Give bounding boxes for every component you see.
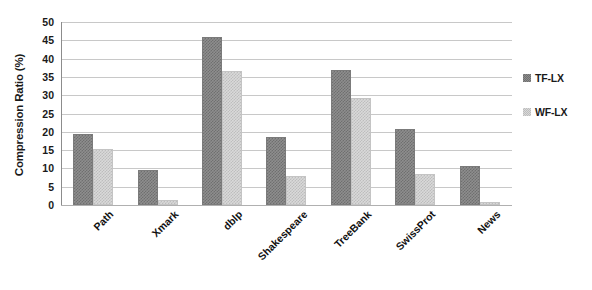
bar <box>286 176 306 205</box>
y-tick-label-30: 30 <box>0 89 58 101</box>
x-tick-label: Path <box>91 208 116 233</box>
bar <box>138 170 158 205</box>
y-tick-label-15: 15 <box>0 144 58 156</box>
y-axis-tick-labels: 50454035302520151050 <box>0 22 58 205</box>
bar-chart: Compression Ratio (%) 504540353025201510… <box>0 0 592 290</box>
legend-swatch-icon <box>523 74 531 82</box>
legend-label: WF-LX <box>535 106 567 118</box>
bar <box>480 202 500 205</box>
legend-item: WF-LX <box>523 106 589 118</box>
bar <box>93 149 113 205</box>
bar <box>73 134 93 205</box>
bar-series-container <box>61 22 512 205</box>
gridline-0 <box>61 205 512 206</box>
x-tick-label: Xmark <box>149 208 180 239</box>
bar-group <box>125 22 189 205</box>
bar <box>351 98 371 205</box>
x-tick-label: News <box>474 208 502 236</box>
bar-group <box>448 22 512 205</box>
bar-group <box>61 22 125 205</box>
bar-group <box>319 22 383 205</box>
y-tick-label-0: 0 <box>0 199 58 211</box>
bar <box>158 200 178 205</box>
bar-group <box>190 22 254 205</box>
y-tick-label-25: 25 <box>0 108 58 120</box>
x-tick-label: TreeBank <box>331 208 373 250</box>
y-tick-label-35: 35 <box>0 71 58 83</box>
bar <box>460 166 480 205</box>
x-tick-label: dblp <box>220 208 244 232</box>
x-tick-label: SwissProt <box>393 208 437 252</box>
bar-group <box>383 22 447 205</box>
legend: TF-LXWF-LX <box>523 72 589 140</box>
bar <box>415 174 435 205</box>
legend-swatch-icon <box>523 108 531 116</box>
x-tick-label: Shakespeare <box>255 208 309 262</box>
legend-label: TF-LX <box>535 72 564 84</box>
y-tick-label-20: 20 <box>0 126 58 138</box>
legend-item: TF-LX <box>523 72 589 84</box>
y-tick-label-45: 45 <box>0 34 58 46</box>
bar <box>395 129 415 205</box>
plot-area <box>61 22 512 205</box>
y-tick-label-10: 10 <box>0 162 58 174</box>
x-axis-tick-labels: PathXmarkdblpShakespeareTreeBankSwissPro… <box>61 208 512 278</box>
bar-group <box>254 22 318 205</box>
bar <box>266 137 286 205</box>
y-tick-label-50: 50 <box>0 16 58 28</box>
y-tick-label-40: 40 <box>0 53 58 65</box>
bar <box>202 37 222 205</box>
y-tick-label-5: 5 <box>0 181 58 193</box>
bar <box>331 70 351 205</box>
bar <box>222 71 242 205</box>
